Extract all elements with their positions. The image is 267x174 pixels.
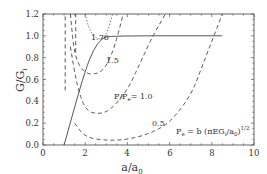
x-tick: 8 [209,148,214,158]
annotation-1.76: 1.76 [91,33,109,42]
curve-p-1.5 [70,14,123,74]
x-tick: 4 [124,148,129,158]
y-axis-label: G/Gi [14,68,29,92]
y-tick: 0.4 [25,96,39,106]
y-tick: 0.0 [25,140,39,150]
y-tick: 0.2 [25,118,39,128]
y-tick: 0.6 [25,75,39,85]
curves [64,14,222,145]
x-tick: 6 [167,148,172,158]
y-tick: 1.2 [25,9,39,19]
x-tick: 0 [40,148,45,158]
y-tick: 1.0 [25,31,39,41]
chart: 0.0 0.2 0.4 0.6 0.8 1.0 1.2 0 2 4 6 8 10… [0,0,267,174]
x-tick: 10 [249,148,260,158]
x-tick: 2 [82,148,87,158]
formula-annotation: Pe = b (πEGi/a0)1/2 [176,125,249,137]
y-tick: 0.8 [25,53,39,63]
plot-frame [43,14,254,145]
annotation-0.5: 0.5 [152,119,165,128]
y-tick-labels: 0.0 0.2 0.4 0.6 0.8 1.0 1.2 [25,9,39,150]
x-tick-labels: 0 2 4 6 8 10 [40,148,259,158]
annotation-1.0: P/Pe= 1.0 [114,92,153,102]
x-axis-label: a/a0 [121,161,142,174]
axis-ticks [43,14,254,145]
annotation-1.5: 1.5 [106,56,119,65]
